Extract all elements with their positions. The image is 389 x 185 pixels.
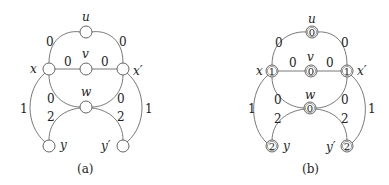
weight-w-yp: 2	[341, 112, 349, 126]
node-v	[80, 63, 92, 75]
label-xp: x′	[133, 64, 143, 78]
weight-x-w: 0	[47, 92, 55, 106]
weight-x-v: 0	[289, 56, 297, 70]
value-y: 2	[269, 141, 275, 152]
weight-x-u: 0	[275, 36, 283, 50]
weight-x-u: 0	[46, 35, 54, 49]
edge-x-y	[30, 73, 45, 142]
node-u: 0	[306, 26, 318, 38]
node-u	[80, 26, 92, 38]
caption-b: (b)	[302, 162, 319, 176]
edge-x-y	[254, 75, 268, 143]
label-y: y	[59, 138, 67, 152]
weight-w-y: 2	[47, 110, 55, 124]
node-v: 0	[305, 65, 317, 77]
weight-x-y: 1	[248, 102, 256, 116]
weight-x-y: 1	[20, 102, 28, 116]
weight-u-xp: 0	[341, 36, 349, 50]
label-u: u	[82, 10, 90, 24]
node-xp: 1	[341, 65, 353, 77]
label-y: y	[282, 139, 290, 153]
weight-x-v: 0	[64, 55, 72, 69]
label-u: u	[308, 12, 316, 26]
caption-a: (a)	[77, 162, 94, 176]
figure: 0 0 0 0 0 0 2 2 1 1 u v w x x′ y y′ (a)	[0, 0, 389, 185]
node-w	[80, 101, 92, 113]
label-xp: x′	[357, 64, 367, 78]
label-x: x	[256, 64, 263, 78]
node-w: 0	[304, 102, 316, 114]
weight-w-yp: 2	[117, 110, 125, 124]
label-v: v	[82, 47, 89, 61]
label-w: w	[81, 85, 92, 99]
node-xp	[117, 63, 129, 75]
weight-v-xp: 0	[101, 55, 109, 69]
panel-a: 0 0 0 0 0 0 2 2 1 1 u v w x x′ y y′ (a)	[20, 10, 153, 176]
weight-w-y: 2	[274, 112, 282, 126]
weight-xp-w: 0	[341, 93, 349, 107]
node-x	[43, 63, 55, 75]
label-x: x	[30, 62, 37, 76]
edge-xp-yp	[127, 73, 142, 142]
weight-xp-yp: 1	[368, 102, 376, 116]
value-v: 0	[308, 66, 314, 77]
value-yp: 2	[344, 141, 350, 152]
weight-v-xp: 0	[326, 56, 334, 70]
node-yp	[117, 140, 129, 152]
node-yp: 2	[341, 140, 353, 152]
value-u: 0	[309, 27, 315, 38]
weight-xp-yp: 1	[145, 102, 153, 116]
label-yp: y′	[325, 140, 336, 154]
edge-xp-yp	[351, 75, 365, 143]
label-w: w	[305, 88, 316, 102]
value-x: 1	[269, 66, 275, 77]
label-yp: y′	[100, 139, 111, 153]
label-v: v	[307, 50, 314, 64]
node-y	[43, 140, 55, 152]
weight-u-xp: 0	[119, 35, 127, 49]
value-w: 0	[307, 103, 313, 114]
node-y: 2	[266, 140, 278, 152]
panel-b: 0 0 0 0 0 0 2 2 1 1 0 0 0 1	[248, 12, 376, 176]
weight-x-w: 0	[274, 93, 282, 107]
value-xp: 1	[344, 66, 350, 77]
weight-xp-w: 0	[117, 92, 125, 106]
node-x: 1	[266, 65, 278, 77]
